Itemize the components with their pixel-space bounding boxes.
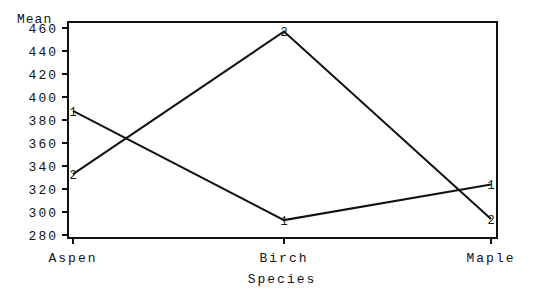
series-marker: 2: [487, 214, 494, 228]
series-line-1: [73, 111, 491, 220]
y-tick-label: 280: [29, 229, 58, 244]
series-marker: 1: [69, 106, 76, 120]
y-tick-label: 320: [29, 183, 58, 198]
y-tick-label: 460: [29, 22, 58, 37]
series-marker: 2: [69, 169, 76, 183]
y-tick-label: 300: [29, 206, 58, 221]
x-tick-label: Aspen: [48, 251, 97, 266]
line-chart: Mean 280300320340360380400420440460 Aspe…: [0, 0, 537, 301]
y-tick-label: 420: [29, 68, 58, 83]
x-tick-label: Birch: [259, 251, 308, 266]
y-tick-label: 400: [29, 91, 58, 106]
y-tick-label: 380: [29, 114, 58, 129]
series-marker: 2: [280, 26, 287, 40]
series-marker: 1: [280, 215, 287, 229]
x-axis-ticks: AspenBirchMaple: [48, 238, 515, 266]
y-tick-label: 340: [29, 160, 58, 175]
y-tick-label: 360: [29, 137, 58, 152]
x-tick-label: Maple: [466, 251, 515, 266]
y-tick-label: 440: [29, 45, 58, 60]
x-axis-label: Species: [248, 272, 317, 287]
series-lines: 111222: [69, 26, 494, 229]
series-line-2: [73, 32, 491, 219]
series-marker: 1: [487, 179, 494, 193]
y-axis-ticks: 280300320340360380400420440460: [29, 22, 68, 244]
plot-frame: [68, 22, 497, 238]
